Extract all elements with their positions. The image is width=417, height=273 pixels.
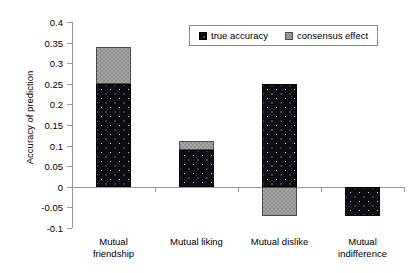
bar-segment-true-accuracy: [179, 150, 214, 187]
y-tick: 0.15: [67, 125, 72, 126]
y-tick-label: 0.25: [45, 78, 64, 89]
bar-segment-consensus-effect: [262, 187, 297, 216]
y-tick-label: 0.35: [45, 37, 64, 48]
y-axis-title: Accuracy of prediction: [24, 33, 35, 203]
x-axis-category-label: Mutualfriendship: [71, 236, 157, 260]
y-tick: 0.25: [67, 84, 72, 85]
legend-label-true-accuracy: true accuracy: [211, 30, 268, 41]
x-tick: [155, 187, 156, 192]
y-axis-line: [72, 22, 73, 228]
chart-legend: true accuracy consensus effect: [189, 25, 378, 46]
x-tick: [238, 187, 239, 192]
y-tick-label: -0.05: [41, 202, 63, 213]
y-tick: 0.05: [67, 166, 72, 167]
y-tick: 0.3: [67, 63, 72, 64]
y-tick-label: 0.05: [45, 161, 64, 172]
y-tick-label: 0.3: [50, 58, 63, 69]
bar-segment-consensus-effect: [179, 141, 214, 149]
x-axis-category-label-line: Mutual dislike: [237, 236, 323, 248]
legend-label-consensus-effect: consensus effect: [297, 30, 368, 41]
y-tick: 0.1: [67, 146, 72, 147]
x-tick: [321, 187, 322, 192]
legend-item-consensus-effect: consensus effect: [285, 30, 368, 41]
x-tick: [72, 187, 73, 192]
legend-item-true-accuracy: true accuracy: [199, 30, 268, 41]
y-tick: -0.05: [67, 207, 72, 208]
legend-swatch-true-accuracy-icon: [199, 32, 207, 40]
y-tick-label: 0: [58, 181, 63, 192]
y-tick-label: 0.2: [50, 99, 63, 110]
y-tick: 0.4: [67, 22, 72, 23]
plot-area: 0.40.350.30.250.20.150.10.050-0.05-0.1: [72, 22, 404, 228]
x-tick: [404, 187, 405, 192]
y-tick: -0.1: [67, 228, 72, 229]
bar-segment-true-accuracy: [345, 187, 380, 216]
x-axis-category-label-line: Mutual: [71, 236, 157, 248]
x-axis-category-label: Mutual liking: [154, 236, 240, 248]
y-tick-label: 0.4: [50, 17, 63, 28]
x-axis-category-label: Mutual dislike: [237, 236, 323, 248]
bar-segment-true-accuracy: [262, 84, 297, 187]
x-axis-category-label-line: Mutual liking: [154, 236, 240, 248]
y-tick-label: -0.1: [47, 223, 63, 234]
y-tick-label: 0.15: [45, 120, 64, 131]
y-tick-label: 0.1: [50, 140, 63, 151]
legend-swatch-consensus-effect-icon: [285, 32, 293, 40]
x-axis-category-label-line: Mutual: [320, 236, 406, 248]
y-tick: 0.2: [67, 104, 72, 105]
x-axis-category-label: Mutualindifference: [320, 236, 406, 260]
bar-segment-true-accuracy: [96, 84, 131, 187]
x-axis-category-label-line: friendship: [71, 248, 157, 260]
y-tick: 0.35: [67, 43, 72, 44]
bar-segment-consensus-effect: [96, 47, 131, 84]
x-axis-category-label-line: indifference: [320, 248, 406, 260]
chart-figure: Accuracy of prediction 0.40.350.30.250.2…: [0, 0, 417, 273]
